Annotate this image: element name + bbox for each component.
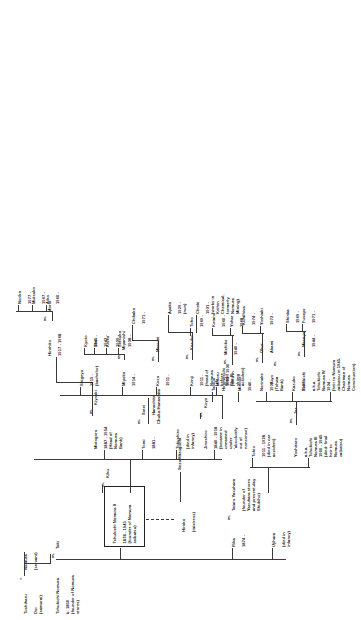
node-motogoro: Motogoro 1887 - 1954 (Head of Nomura Ban… [88,417,128,449]
node-detail: 1917 - 1968 [57,322,62,356]
connector [232,335,233,365]
connector [122,387,123,396]
sibling-spine [286,331,306,332]
connector [24,552,25,576]
connector [176,450,177,460]
connector [190,387,191,396]
connector [118,348,119,355]
node-detail: (mistress) [191,502,196,532]
node-detail: a.k.a. Tchukichi Nomura III 1900 - 1945 … [303,425,343,457]
node-detail: Hiromitsuhi [221,367,226,391]
node-name: Rika [231,521,236,547]
node-detail: 1971 - [141,298,146,324]
node-toho: Kotaro 1960 - [206,305,231,327]
node-detail: 1932 - (Tohwa Bank) [269,363,284,391]
marriage-mark-root: = [18,578,23,580]
connector [24,563,50,564]
node-name: Tchukichi Nomura [55,560,60,614]
marriage-mark-kazuko: m. [184,354,189,359]
connector [46,305,47,312]
connector [148,398,149,424]
node-mutsuko: Noriko 1977 - [12,280,37,304]
marriage-mark-jar: m. [288,418,293,423]
node-detail: 1944 - [311,323,316,347]
node-rika: Rika 1874 - [226,521,251,547]
node-name: Kiku [105,452,110,478]
node-detail: b. 1850 (founder of Nomura stores) [65,560,80,614]
node-tohio: Tohio 1911 - 1928 (died in car accident) [246,427,281,457]
connector [252,458,253,468]
node-detail: 1969 - [295,299,300,323]
node-nomura-servant: Nomura (servant) [18,530,43,570]
node-detail: (died in infancy) [281,519,291,547]
connector [330,392,331,402]
node-detail: 1969 - [199,301,204,327]
node-name: Hirohito [47,322,52,356]
node-detail: 1967 - [41,284,46,304]
node-name: Shigeyo [79,358,84,386]
node-name: Jinoshiro [203,419,208,449]
connector [84,348,85,355]
node-detail: 1938 - [127,323,132,347]
connector [266,392,267,402]
node-name: Tchukichi Nomura II [112,490,117,544]
node-detail: 1942 - [103,327,108,347]
node-tomi: Tomi 1881 - [136,425,161,449]
node-name: Noriko [17,280,22,304]
node-detail: 1915 - (bachelor) [89,358,99,386]
connector [130,459,131,493]
connector [158,340,159,362]
node-detail: a.k.a. Tchukichi Nomura IV 1934 - (heir … [311,357,356,391]
node-name: Sotei [141,385,146,415]
node-kazuko-2: Kazuko 1937 - [286,367,311,391]
node-detail: 1911 - 1928 (died in car accident) [261,427,276,457]
node-name: Tohio [251,427,256,457]
connector [80,387,81,396]
node-detail: 1939 - [115,325,120,347]
node-detail: Akami [269,327,274,353]
mistress-connector [146,519,174,520]
connector [222,395,223,419]
connector [102,485,103,493]
connector [212,328,213,336]
node-detail: 1878 - 1945 (founder of Nomura zaibatsu) [122,490,137,544]
node-detail: 1960 - [55,282,60,304]
node-kozo: Kozo 1911 - [150,362,175,386]
node-detail: 1960 - [221,305,226,327]
node-name: Hiroko [181,502,186,532]
node-name: Toshiharu [23,570,28,614]
node-detail: 1881 - [151,425,156,449]
node-name: Tatsuo [211,367,216,391]
sibling-spine [250,467,310,468]
node-name: Motogoro [93,417,98,449]
connector [104,450,105,460]
node-name: Tataro Yasuhara [231,459,236,511]
node-chikako: Chikako 1971 - [126,298,151,324]
connector [304,331,305,357]
connector [92,382,93,416]
sibling-spine [34,459,222,460]
node-detail: 1940 - [247,365,252,391]
node-hiroko-mistress: Hiroko (mistress) [176,502,201,532]
node-detail: 1971 - [311,299,316,323]
node-yoshitaro: Yoshitaro a.k.a. Tchukichi Nomura III 19… [288,425,348,457]
node-detail: 1937 - [301,367,306,391]
node-toshi-hara: Toshiharu Doi (samurai) [18,570,48,614]
node-detail: 1974 - [251,301,256,325]
connector [296,401,297,425]
connector [292,392,293,402]
node-detail: Doi (samurai) [33,570,43,614]
connector [308,458,309,468]
node-detail: 1914 - [131,360,136,386]
connector [260,326,261,334]
node-ujihara: Ujihara (died in infancy) [266,519,296,547]
connector [142,450,143,460]
connector [212,392,213,402]
connector [124,354,125,360]
node-name: Kozo [155,362,160,386]
connector [18,305,19,312]
node-shinka: Shinka 1969 - [280,299,305,323]
node-detail: (servant) [33,530,38,570]
node-detail: 1911 - [165,362,170,386]
